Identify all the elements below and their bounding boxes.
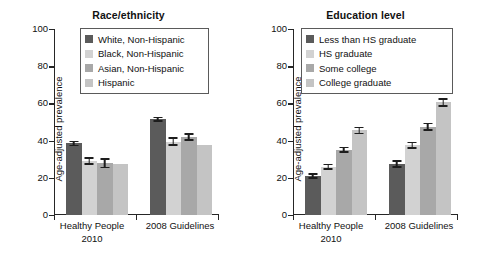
bar bbox=[181, 137, 197, 215]
y-axis-tick-label: 100 bbox=[255, 24, 287, 34]
panel-title: Education level bbox=[253, 9, 478, 21]
legend-label: Asian, Non-Hispanic bbox=[98, 64, 184, 74]
x-axis-label: 2008 Guidelines bbox=[138, 220, 222, 233]
x-axis-labels: Healthy People20102008 Guidelines bbox=[293, 220, 458, 256]
bar bbox=[420, 127, 436, 215]
error-bar bbox=[324, 164, 333, 170]
y-axis-tick-label: 60 bbox=[255, 99, 287, 109]
bar bbox=[150, 119, 166, 215]
x-axis-label: Healthy People2010 bbox=[48, 220, 136, 245]
y-axis-tick-label: 40 bbox=[255, 136, 287, 146]
error-bar bbox=[339, 147, 348, 153]
legend-item[interactable]: White, Non-Hispanic bbox=[85, 32, 203, 47]
bar bbox=[197, 145, 213, 215]
y-axis-tick-label: 80 bbox=[255, 61, 287, 71]
legend-swatch-icon bbox=[85, 35, 93, 43]
bar bbox=[113, 164, 129, 215]
y-axis-tick-label: 40 bbox=[16, 136, 48, 146]
figure: Race/ethnicity Age-adjusted prevalence 0… bbox=[0, 0, 478, 257]
legend-swatch-icon bbox=[306, 50, 314, 58]
x-axis-labels: Healthy People20102008 Guidelines bbox=[54, 220, 219, 256]
legend-swatch-icon bbox=[306, 79, 314, 87]
error-bar bbox=[100, 158, 109, 168]
x-axis-label-line: Healthy People bbox=[48, 220, 136, 233]
legend: White, Non-Hispanic Black, Non-Hispanic … bbox=[80, 28, 209, 94]
legend-label: College graduate bbox=[319, 78, 391, 88]
bar bbox=[66, 143, 82, 215]
legend-swatch-icon bbox=[306, 64, 314, 72]
legend-item[interactable]: College graduate bbox=[306, 76, 447, 91]
legend-label: Hispanic bbox=[98, 78, 134, 88]
x-axis-label-line: 2008 Guidelines bbox=[377, 220, 461, 233]
x-axis-label: 2008 Guidelines bbox=[377, 220, 461, 233]
legend-item[interactable]: Asian, Non-Hispanic bbox=[85, 61, 203, 76]
error-bar bbox=[85, 157, 94, 164]
error-bar bbox=[184, 133, 193, 141]
legend-swatch-icon bbox=[306, 35, 314, 43]
legend-label: HS graduate bbox=[319, 49, 372, 59]
bar bbox=[97, 163, 113, 215]
x-axis-label-line: 2010 bbox=[287, 233, 375, 246]
legend-swatch-icon bbox=[85, 64, 93, 72]
y-axis-tick-label: 0 bbox=[255, 210, 287, 220]
error-bar bbox=[392, 160, 401, 167]
legend-item[interactable]: Hispanic bbox=[85, 76, 203, 91]
x-axis-label-line: 2010 bbox=[48, 233, 136, 246]
error-bar bbox=[308, 173, 317, 179]
panel-education-level: Education level Age-adjusted prevalence … bbox=[239, 0, 478, 257]
legend-item[interactable]: Some college bbox=[306, 61, 447, 76]
legend-item[interactable]: Black, Non-Hispanic bbox=[85, 47, 203, 62]
x-axis-label: Healthy People2010 bbox=[287, 220, 375, 245]
y-axis-tick-label: 0 bbox=[16, 210, 48, 220]
legend-label: Black, Non-Hispanic bbox=[98, 49, 184, 59]
panel-title: Race/ethnicity bbox=[18, 9, 239, 21]
error-bar bbox=[423, 123, 432, 131]
y-axis-tick-label: 100 bbox=[16, 24, 48, 34]
legend-label: White, Non-Hispanic bbox=[98, 35, 185, 45]
error-bar bbox=[355, 127, 364, 134]
legend-item[interactable]: HS graduate bbox=[306, 47, 447, 62]
x-axis-label-line: 2008 Guidelines bbox=[138, 220, 222, 233]
bar bbox=[166, 142, 182, 215]
bar bbox=[436, 102, 452, 215]
error-bar bbox=[439, 98, 448, 106]
bar bbox=[336, 150, 352, 215]
y-axis-tick-label: 20 bbox=[16, 173, 48, 183]
legend-swatch-icon bbox=[85, 79, 93, 87]
panel-race-ethnicity: Race/ethnicity Age-adjusted prevalence 0… bbox=[0, 0, 239, 257]
bar bbox=[321, 167, 337, 215]
legend-item[interactable]: Less than HS graduate bbox=[306, 32, 447, 47]
error-bar bbox=[69, 141, 78, 147]
legend-label: Some college bbox=[319, 64, 377, 74]
x-axis-label-line: Healthy People bbox=[287, 220, 375, 233]
y-axis-tick-label: 60 bbox=[16, 99, 48, 109]
legend-label: Less than HS graduate bbox=[319, 35, 416, 45]
error-bar bbox=[169, 137, 178, 146]
y-axis-tick-label: 80 bbox=[16, 61, 48, 71]
bar bbox=[389, 164, 405, 215]
bar bbox=[305, 176, 321, 215]
legend: Less than HS graduate HS graduate Some c… bbox=[301, 28, 453, 94]
legend-swatch-icon bbox=[85, 50, 93, 58]
error-bar bbox=[408, 142, 417, 149]
y-axis-tick-label: 20 bbox=[255, 173, 287, 183]
bar bbox=[82, 161, 98, 215]
error-bar bbox=[153, 117, 162, 122]
bar bbox=[405, 145, 421, 215]
bar bbox=[352, 130, 368, 215]
